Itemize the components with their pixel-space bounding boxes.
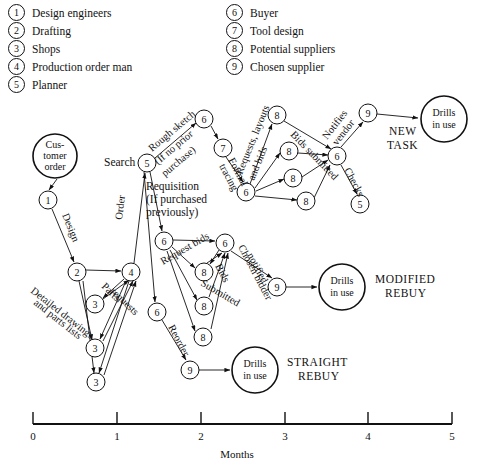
node-5-right: 5: [351, 195, 369, 213]
node-8-b: 8: [280, 142, 298, 160]
node-label: 8: [275, 110, 280, 121]
node-label: 9: [366, 108, 371, 119]
node-label: 8: [202, 267, 207, 278]
node-label: 3: [93, 299, 98, 310]
edge-customer-to-1: [49, 179, 57, 190]
edge-6m1-to-8g: [167, 251, 195, 331]
label-reorder: Reorder: [166, 323, 192, 358]
node-label: 6: [223, 238, 228, 249]
node-2: 2: [68, 263, 86, 281]
axis-tick-label: 0: [30, 430, 36, 442]
straight-rebuy-line2: REBUY: [298, 370, 340, 382]
node-3-b: 3: [86, 339, 104, 357]
axis-tick-label: 1: [114, 430, 120, 442]
terminal-drills-new-task: Drills in use: [421, 96, 467, 142]
customer-order-line1: Cus-: [46, 139, 65, 150]
edge-6top-to-7: [211, 126, 218, 139]
drills-new-line2: in use: [432, 119, 456, 130]
node-label: 9: [188, 365, 193, 376]
drills-modified-line2: in use: [330, 287, 354, 298]
node-label: 5: [145, 158, 150, 169]
node-label: 5: [358, 199, 363, 210]
node-label: 6: [162, 236, 167, 247]
node-label: 2: [75, 267, 80, 278]
node-6-top: 6: [195, 110, 213, 128]
modified-rebuy-line2: REBUY: [385, 287, 427, 299]
label-design: Design: [60, 212, 82, 244]
edge-9top-to-drills-new: [377, 114, 418, 118]
nodes: 1 2 3 3 3 4 5 6 7 6 8 8 8 8 6 9 5 6 6 8 …: [39, 104, 377, 391]
node-9-low: 9: [181, 361, 199, 379]
label-order: Order: [113, 194, 127, 220]
label-checks: Checks: [342, 166, 366, 198]
axis-tick-label: 4: [365, 430, 371, 442]
node-4: 4: [122, 263, 140, 281]
node-label: 6: [155, 307, 160, 318]
modified-rebuy-line1: MODIFIED: [375, 273, 435, 285]
node-label: 8: [304, 196, 309, 207]
axis-title: Months: [220, 448, 254, 460]
node-label: 3: [93, 343, 98, 354]
node-8-g: 8: [194, 328, 212, 346]
node-label: 1: [46, 195, 51, 206]
edge-6m2-to-8e: [210, 250, 219, 264]
axis-tick-label: 3: [282, 430, 288, 442]
edge-6mid-to-8d: [255, 196, 297, 200]
node-label: 8: [201, 332, 206, 343]
label-bids: Bids: [213, 262, 232, 284]
node-label: 3: [94, 377, 99, 388]
node-label: 8: [291, 173, 296, 184]
drills-new-line1: Drills: [433, 107, 456, 118]
node-6-mid-right: 6: [216, 234, 234, 252]
drills-straight-line2: in use: [243, 370, 267, 381]
label-previously: previously): [146, 206, 199, 219]
node-6-low: 6: [148, 303, 166, 321]
node-label: 9: [275, 282, 280, 293]
label-search: Search: [104, 156, 136, 168]
node-6-right: 6: [328, 147, 346, 165]
edge-4-to-5: [134, 173, 145, 263]
drills-modified-line1: Drills: [331, 275, 354, 286]
drills-straight-line1: Drills: [244, 358, 267, 369]
new-task-line2: TASK: [387, 139, 418, 151]
node-8-c: 8: [284, 169, 302, 187]
node-7-tool-design: 7: [214, 139, 232, 157]
node-label: 7: [221, 143, 226, 154]
node-label: 6: [202, 114, 207, 125]
straight-rebuy-line1: STRAIGHT: [287, 356, 348, 368]
node-8-f: 8: [195, 297, 213, 315]
label-requisition: Requisition: [146, 180, 199, 193]
node-label: 6: [335, 151, 340, 162]
node-label: 4: [129, 267, 134, 278]
edge-2-to-4: [86, 270, 121, 271]
node-9-top: 9: [359, 104, 377, 122]
terminal-customer-order: Cus- tomer order: [33, 134, 77, 178]
new-task-line1: NEW: [389, 125, 417, 137]
node-label: 6: [244, 187, 249, 198]
edge-labels: Design Detailed drawings and parts lists…: [29, 103, 367, 358]
customer-order-line3: order: [44, 161, 66, 172]
customer-order-line2: tomer: [43, 150, 67, 161]
months-axis: 0 1 2 3 4 5 Months: [30, 412, 455, 460]
node-1: 1: [39, 191, 57, 209]
outcome-labels: NEW TASK MODIFIED REBUY STRAIGHT REBUY: [287, 125, 435, 382]
diagram-root: 1 Design engineers 2 Drafting 3 Shops 4 …: [0, 0, 485, 466]
node-label: 8: [287, 146, 292, 157]
network-diagram: Cus- tomer order Drills in use Drills in…: [0, 0, 485, 466]
axis-tick-label: 2: [198, 430, 204, 442]
node-6-mid-left: 6: [155, 232, 173, 250]
label-if-purchased: (If purchased: [146, 193, 207, 206]
terminal-drills-straight-rebuy: Drills in use: [232, 347, 278, 393]
node-8-d: 8: [297, 192, 315, 210]
node-3-c: 3: [87, 373, 105, 391]
terminal-drills-modified-rebuy: Drills in use: [319, 264, 365, 310]
node-3-a: 3: [86, 295, 104, 313]
axis-tick-label: 5: [449, 430, 455, 442]
edge-8e-to-6m2: [207, 253, 222, 263]
node-label: 8: [202, 301, 207, 312]
